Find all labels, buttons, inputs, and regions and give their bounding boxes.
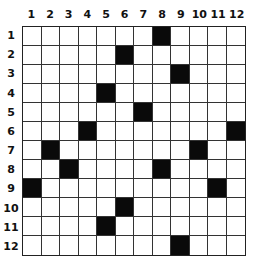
grid-cell[interactable] bbox=[153, 217, 172, 236]
grid-cell[interactable] bbox=[97, 160, 116, 179]
grid-cell[interactable] bbox=[79, 141, 98, 160]
grid-cell[interactable] bbox=[60, 217, 79, 236]
grid-cell[interactable] bbox=[97, 27, 116, 46]
grid-cell[interactable] bbox=[190, 65, 209, 84]
grid-cell[interactable] bbox=[42, 217, 61, 236]
grid-cell-filled[interactable] bbox=[171, 65, 190, 84]
grid-cell[interactable] bbox=[171, 198, 190, 217]
grid-cell[interactable] bbox=[23, 84, 42, 103]
grid-cell[interactable] bbox=[208, 27, 227, 46]
grid-cell[interactable] bbox=[134, 217, 153, 236]
grid-cell[interactable] bbox=[227, 46, 246, 65]
grid-cell-filled[interactable] bbox=[79, 122, 98, 141]
grid-cell[interactable] bbox=[60, 103, 79, 122]
grid-cell[interactable] bbox=[116, 217, 135, 236]
grid-cell[interactable] bbox=[23, 141, 42, 160]
grid-cell[interactable] bbox=[23, 236, 42, 255]
grid-cell-filled[interactable] bbox=[153, 160, 172, 179]
grid-cell[interactable] bbox=[190, 27, 209, 46]
grid-cell[interactable] bbox=[171, 160, 190, 179]
grid-cell[interactable] bbox=[97, 198, 116, 217]
grid-cell[interactable] bbox=[227, 65, 246, 84]
grid-cell[interactable] bbox=[60, 179, 79, 198]
grid-cell[interactable] bbox=[227, 27, 246, 46]
grid-cell[interactable] bbox=[23, 160, 42, 179]
grid-cell[interactable] bbox=[79, 84, 98, 103]
grid-cell[interactable] bbox=[171, 103, 190, 122]
grid-cell[interactable] bbox=[97, 46, 116, 65]
grid-cell[interactable] bbox=[190, 160, 209, 179]
grid-cell[interactable] bbox=[116, 27, 135, 46]
grid-cell[interactable] bbox=[42, 122, 61, 141]
grid-cell[interactable] bbox=[116, 65, 135, 84]
grid-cell-filled[interactable] bbox=[134, 103, 153, 122]
grid-cell[interactable] bbox=[60, 236, 79, 255]
grid-cell[interactable] bbox=[42, 179, 61, 198]
grid-cell[interactable] bbox=[79, 65, 98, 84]
grid-cell[interactable] bbox=[153, 46, 172, 65]
grid-cell[interactable] bbox=[190, 217, 209, 236]
grid-cell[interactable] bbox=[134, 84, 153, 103]
grid-cell-filled[interactable] bbox=[153, 27, 172, 46]
grid-cell[interactable] bbox=[227, 141, 246, 160]
grid-cell[interactable] bbox=[42, 65, 61, 84]
grid-cell[interactable] bbox=[23, 217, 42, 236]
grid-cell[interactable] bbox=[208, 198, 227, 217]
grid-cell[interactable] bbox=[153, 236, 172, 255]
grid-cell[interactable] bbox=[171, 122, 190, 141]
grid-cell[interactable] bbox=[79, 236, 98, 255]
grid-cell[interactable] bbox=[60, 27, 79, 46]
grid-cell[interactable] bbox=[227, 103, 246, 122]
grid-cell[interactable] bbox=[79, 27, 98, 46]
grid-cell[interactable] bbox=[23, 65, 42, 84]
grid-cell[interactable] bbox=[208, 46, 227, 65]
grid-cell-filled[interactable] bbox=[97, 217, 116, 236]
grid-cell[interactable] bbox=[79, 179, 98, 198]
grid-cell[interactable] bbox=[79, 198, 98, 217]
grid-cell[interactable] bbox=[97, 236, 116, 255]
grid-cell[interactable] bbox=[79, 103, 98, 122]
grid-cell[interactable] bbox=[208, 236, 227, 255]
grid-cell[interactable] bbox=[60, 84, 79, 103]
grid-cell-filled[interactable] bbox=[60, 160, 79, 179]
grid-cell[interactable] bbox=[190, 103, 209, 122]
grid-cell-filled[interactable] bbox=[42, 141, 61, 160]
grid-cell[interactable] bbox=[42, 84, 61, 103]
grid-cell[interactable] bbox=[97, 179, 116, 198]
grid-cell[interactable] bbox=[60, 198, 79, 217]
grid-cell-filled[interactable] bbox=[190, 141, 209, 160]
grid-cell-filled[interactable] bbox=[208, 179, 227, 198]
grid-cell[interactable] bbox=[134, 122, 153, 141]
grid-cell[interactable] bbox=[190, 198, 209, 217]
grid-cell[interactable] bbox=[171, 141, 190, 160]
grid-cell-filled[interactable] bbox=[116, 198, 135, 217]
grid-cell-filled[interactable] bbox=[97, 84, 116, 103]
grid-cell[interactable] bbox=[23, 198, 42, 217]
grid-cell-filled[interactable] bbox=[171, 236, 190, 255]
grid-cell[interactable] bbox=[227, 198, 246, 217]
grid-cell[interactable] bbox=[190, 236, 209, 255]
grid-cell[interactable] bbox=[60, 141, 79, 160]
grid-cell[interactable] bbox=[134, 236, 153, 255]
grid-cell[interactable] bbox=[42, 103, 61, 122]
grid-cell[interactable] bbox=[208, 122, 227, 141]
grid-cell[interactable] bbox=[134, 27, 153, 46]
grid-cell[interactable] bbox=[171, 46, 190, 65]
grid-cell[interactable] bbox=[134, 46, 153, 65]
grid-cell[interactable] bbox=[227, 217, 246, 236]
grid-cell[interactable] bbox=[208, 141, 227, 160]
grid-cell[interactable] bbox=[116, 236, 135, 255]
grid-cell[interactable] bbox=[134, 141, 153, 160]
grid-cell[interactable] bbox=[60, 46, 79, 65]
grid-cell[interactable] bbox=[97, 141, 116, 160]
grid-cell[interactable] bbox=[190, 179, 209, 198]
grid-cell[interactable] bbox=[42, 160, 61, 179]
grid-cell[interactable] bbox=[116, 122, 135, 141]
grid-cell[interactable] bbox=[153, 122, 172, 141]
grid-cell[interactable] bbox=[60, 65, 79, 84]
grid-cell[interactable] bbox=[42, 198, 61, 217]
grid-cell[interactable] bbox=[208, 103, 227, 122]
grid-cell[interactable] bbox=[134, 65, 153, 84]
grid-cell[interactable] bbox=[153, 84, 172, 103]
grid-cell[interactable] bbox=[153, 141, 172, 160]
